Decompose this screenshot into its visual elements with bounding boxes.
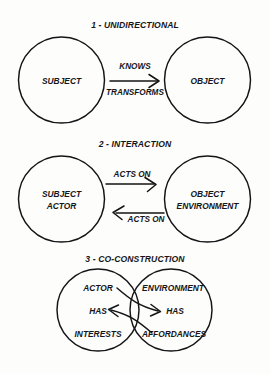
edge-label-transforms: TRANSFORMS <box>94 88 176 97</box>
panel-title-co-construction: 3 - CO-CONSTRUCTION <box>0 254 270 264</box>
arrow-knows-transforms <box>110 75 159 88</box>
node-label-object-environment: OBJECT ENVIRONMENT <box>160 188 255 212</box>
edge-label-acts-on-bottom: ACTS ON <box>112 215 180 224</box>
diagram-canvas <box>0 0 270 374</box>
panel-title-unidirectional: 1 - UNIDIRECTIONAL <box>0 20 270 30</box>
node-label-object-environment-line1: OBJECT <box>160 188 255 200</box>
node-label-object: OBJECT <box>168 75 247 87</box>
arrow-acts-on-right <box>106 178 156 192</box>
node-label-actor-line3: INTERESTS <box>58 328 138 340</box>
edge-label-knows: KNOWS <box>99 62 171 71</box>
node-label-environment-line3: AFFORDANCES <box>128 328 220 340</box>
node-label-actor-line2: HAS <box>62 305 134 317</box>
node-label-subject-actor: SUBJECT ACTOR <box>22 188 101 212</box>
diagram-page: 1 - UNIDIRECTIONAL SUBJECT OBJECT KNOWS … <box>0 0 270 374</box>
node-label-actor-line1: ACTOR <box>62 282 134 294</box>
panel-title-interaction: 2 - INTERACTION <box>0 139 270 149</box>
node-label-environment-line2: HAS <box>139 305 211 317</box>
edge-label-acts-on-top: ACTS ON <box>98 170 166 179</box>
node-label-object-environment-line2: ENVIRONMENT <box>160 200 255 212</box>
node-label-subject-actor-line1: SUBJECT <box>22 188 101 200</box>
node-label-subject: SUBJECT <box>22 75 101 87</box>
node-label-environment-line1: ENVIRONMENT <box>128 282 218 294</box>
node-label-subject-actor-line2: ACTOR <box>22 200 101 212</box>
